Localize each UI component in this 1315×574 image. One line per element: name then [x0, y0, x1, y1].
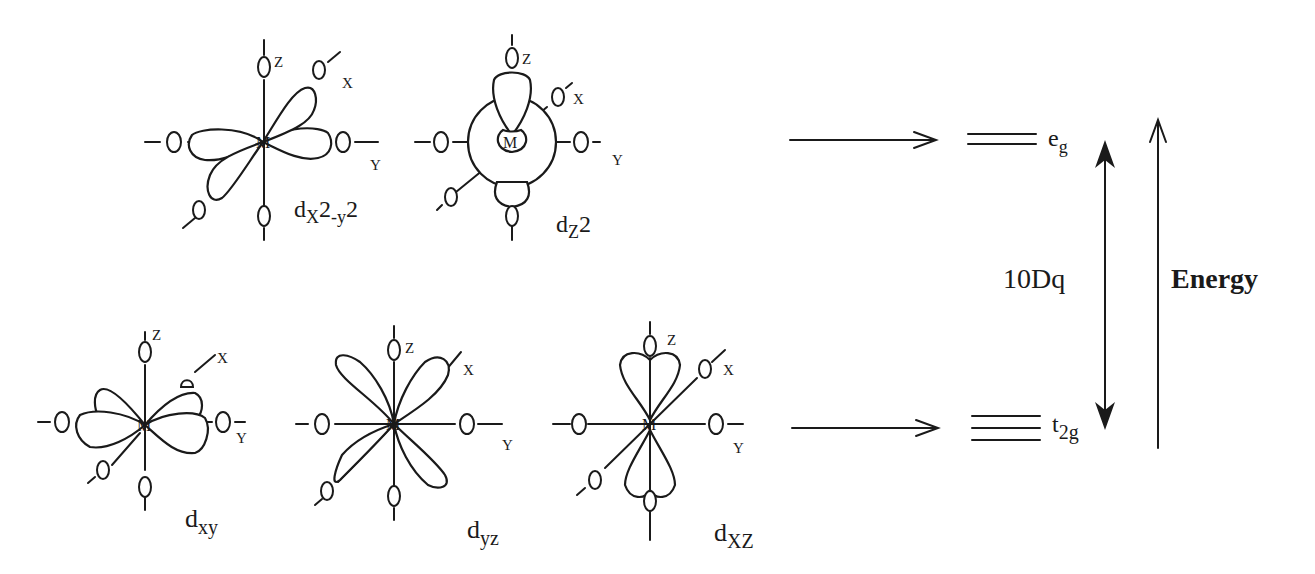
energy-arrow [1150, 120, 1166, 448]
label-dxz: dXZ [714, 518, 754, 552]
orbital-dz2: M Z X Y dZ2 [415, 35, 623, 242]
svg-text:Z: Z [667, 332, 676, 348]
svg-text:X: X [723, 362, 734, 378]
orbital-dyz: M Z X Y dyz [296, 326, 513, 550]
energy-label: Energy [1171, 263, 1258, 294]
center-atom-label: M [256, 134, 270, 151]
eg-level: eg [968, 125, 1068, 157]
eg-label: eg [1048, 125, 1068, 157]
orbital-dx2-y2: M Z X Y dX2-y2 [145, 40, 381, 240]
crystal-field-diagram: M Z X Y dX2-y2 M Z X Y dZ2 [0, 0, 1315, 574]
label-dyz: dyz [467, 515, 499, 550]
label-dxy: dxy [185, 504, 218, 539]
label-dx2-y2: dX2-y2 [294, 196, 358, 227]
svg-text:X: X [342, 75, 353, 91]
svg-text:X: X [573, 91, 584, 107]
svg-text:Z: Z [405, 340, 414, 356]
arrow-to-t2g [792, 420, 938, 436]
arrow-to-eg [790, 132, 936, 148]
svg-text:M: M [642, 416, 656, 433]
svg-text:M: M [503, 134, 517, 151]
svg-text:X: X [217, 350, 228, 366]
svg-text:X: X [463, 362, 474, 378]
svg-text:Y: Y [502, 437, 513, 453]
svg-text:Z: Z [274, 54, 283, 70]
svg-text:M: M [137, 417, 151, 434]
svg-text:Y: Y [236, 430, 247, 446]
t2g-level: t2g [972, 411, 1079, 444]
svg-text:Y: Y [370, 157, 381, 173]
svg-text:Z: Z [152, 327, 161, 343]
splitting-label: 10Dq [1003, 263, 1065, 294]
label-dz2: dZ2 [556, 211, 591, 242]
orbital-dxy: M Z X Y dxy [38, 327, 247, 539]
splitting-arrow [1095, 140, 1115, 430]
svg-text:Z: Z [522, 51, 531, 67]
orbital-dxz: M Z X Y dXZ [553, 322, 754, 552]
svg-text:Y: Y [612, 152, 623, 168]
t2g-label: t2g [1052, 411, 1079, 444]
svg-text:M: M [386, 416, 400, 433]
svg-text:Y: Y [733, 440, 744, 456]
